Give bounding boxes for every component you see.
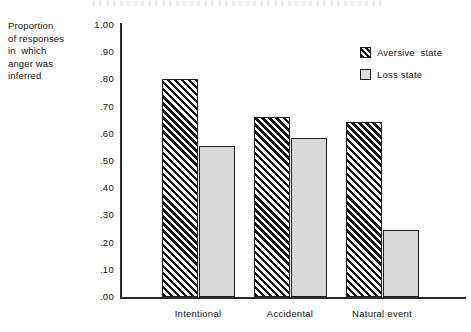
y-tick-label: .30 xyxy=(68,210,114,220)
scan-bleed-artifact xyxy=(92,1,382,6)
y-tick-label: 1.00 xyxy=(68,20,114,30)
bar-natural-event-aversive xyxy=(346,122,382,297)
x-category-label: Natural event xyxy=(322,308,442,319)
y-tick-label: .70 xyxy=(68,102,114,112)
x-axis-line xyxy=(120,297,466,299)
y-tick-label: .40 xyxy=(68,183,114,193)
y-tick-label: .90 xyxy=(68,47,114,57)
bar-accidental-loss xyxy=(291,138,327,297)
gray-swatch xyxy=(360,69,371,80)
legend-item-label: Loss state xyxy=(377,69,422,80)
y-tick-label: .20 xyxy=(68,238,114,248)
hatched-diagonal-swatch xyxy=(360,47,371,58)
legend-item-aversive: Aversive state xyxy=(360,47,471,58)
bar-natural-event-loss xyxy=(383,230,419,297)
y-tick-label: .60 xyxy=(68,129,114,139)
y-tick-label: .80 xyxy=(68,74,114,84)
bar-accidental-aversive xyxy=(254,117,290,297)
bar-intentional-aversive xyxy=(162,79,198,297)
legend-item-label: Aversive state xyxy=(377,47,442,58)
legend-item-loss: Loss state xyxy=(360,69,471,80)
y-axis-tick-labels: 1.00.90.80.70.60.50.40.30.20.10.00 xyxy=(66,0,114,332)
y-tick-label: .50 xyxy=(68,156,114,166)
y-tick-label: .10 xyxy=(68,265,114,275)
y-tick-label: .00 xyxy=(68,292,114,302)
bar-intentional-loss xyxy=(199,146,235,297)
bar-chart-figure: Proportion of responses in which anger w… xyxy=(0,0,471,332)
legend: Aversive stateLoss state xyxy=(360,47,471,91)
